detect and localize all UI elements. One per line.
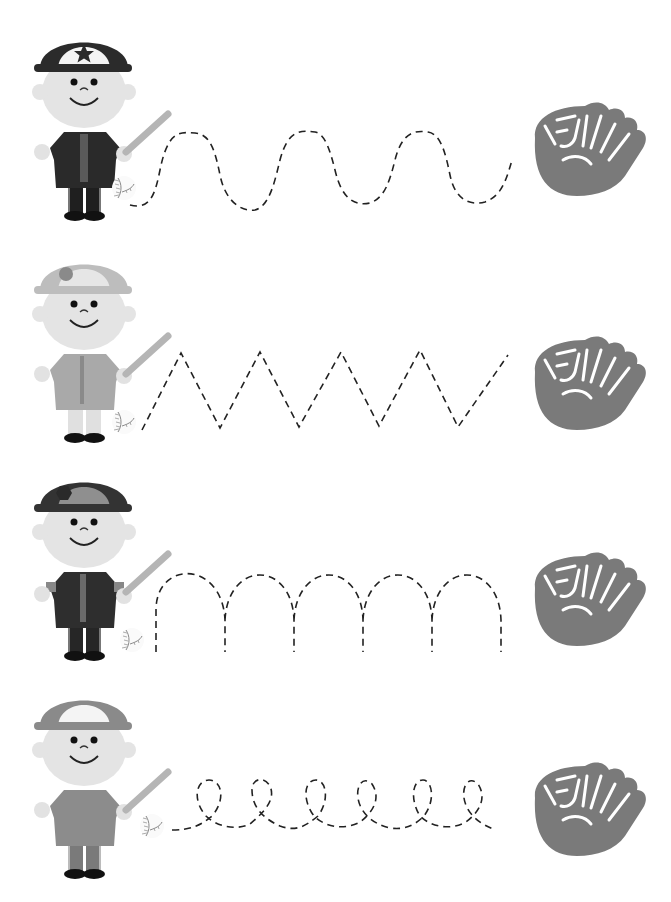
row-4 [32,701,646,880]
glove-icon [535,337,646,430]
trace-path-arches[interactable] [156,574,501,652]
glove-icon [535,763,646,856]
row-3 [32,483,646,662]
player-2 [32,265,168,444]
baseball-icon [112,410,136,434]
glove-icon [535,553,646,646]
player-1 [32,43,168,222]
trace-path-zigzag[interactable] [142,350,508,430]
baseball-icon [120,628,144,652]
player-4 [32,701,168,880]
trace-path-wave[interactable] [130,131,512,210]
row-2 [32,265,646,444]
glove-icon [535,103,646,196]
baseball-icon [140,814,164,838]
player-3 [32,483,168,662]
baseball-icon [112,176,136,200]
row-1 [32,43,646,222]
trace-path-loops[interactable] [172,780,496,830]
worksheet-canvas [0,0,671,902]
